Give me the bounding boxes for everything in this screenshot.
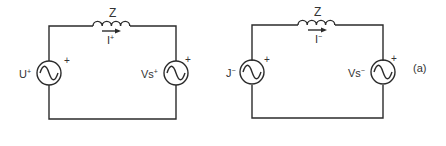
arrow-head-icon <box>115 29 121 34</box>
circuit-positive: Z I+ + + U+ Vs+ <box>19 6 191 119</box>
impedance-label: Z <box>314 5 321 19</box>
polarity-mark-left: + <box>264 54 270 65</box>
wire-bottom <box>252 85 383 118</box>
right-source-label: Vs+ <box>141 68 158 80</box>
inductor-icon <box>93 21 130 26</box>
diagram-svg: Z I+ + + U+ Vs+ Z I− + + J− Vs− (a) <box>0 0 446 146</box>
inductor-icon <box>298 20 335 25</box>
wire-bottom <box>49 85 176 119</box>
circuit-diagram: Z I+ + + U+ Vs+ Z I− + + J− Vs− (a) <box>0 0 446 146</box>
right-source-label: Vs− <box>348 67 365 79</box>
impedance-label: Z <box>109 6 116 20</box>
polarity-mark-right: + <box>391 53 397 64</box>
current-label: I+ <box>107 34 114 46</box>
wire-top-left <box>252 25 298 61</box>
ac-source-icon-left <box>240 60 264 84</box>
ac-source-icon-left <box>37 61 61 85</box>
left-source-label: U+ <box>19 68 31 80</box>
left-source-label: J− <box>226 67 236 79</box>
circuit-negative: Z I− + + J− Vs− <box>226 5 397 118</box>
current-label: I− <box>315 33 322 45</box>
figure-label: (a) <box>413 62 426 74</box>
arrow-head-icon <box>321 28 327 33</box>
wire-top-right <box>130 26 176 61</box>
wire-top-right <box>335 25 383 61</box>
polarity-mark-right: + <box>185 54 191 65</box>
wire-top-left <box>49 26 93 61</box>
polarity-mark-left: + <box>64 55 70 66</box>
